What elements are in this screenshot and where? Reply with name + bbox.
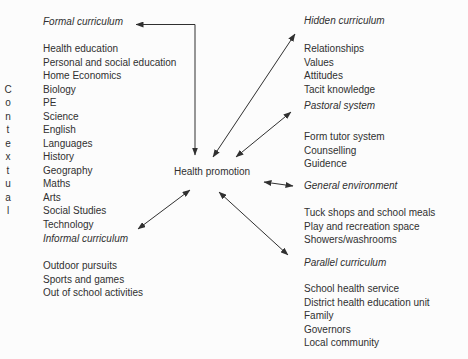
list-item: Social Studies xyxy=(43,204,176,218)
section-title-pastoral-system: Pastoral system xyxy=(304,99,375,113)
section-title-informal-curriculum: Informal curriculum xyxy=(43,232,128,246)
list-item: Biology xyxy=(43,83,176,97)
list-item: Governors xyxy=(304,323,430,337)
list-item: Tacit knowledge xyxy=(304,83,375,97)
list-item: Counselling xyxy=(304,144,385,158)
list-item: Languages xyxy=(43,137,176,151)
informal-curriculum-list: Outdoor pursuits Sports and games Out of… xyxy=(43,259,143,300)
contextual-letter: l xyxy=(2,204,14,218)
list-item: Local community xyxy=(304,336,430,350)
contextual-letter: o xyxy=(2,96,14,110)
section-title-formal-curriculum: Formal curriculum xyxy=(43,15,123,29)
arrow-hidden-curriculum xyxy=(213,34,295,157)
contextual-letter: t xyxy=(2,164,14,178)
list-item: Tuck shops and school meals xyxy=(304,206,435,220)
health-promotion-diagram: C o n t e x t u a l Formal curriculum He… xyxy=(0,0,468,359)
contextual-letter: t xyxy=(2,123,14,137)
section-title-hidden-curriculum: Hidden curriculum xyxy=(304,14,385,28)
list-item: Values xyxy=(304,56,375,70)
list-item: School health service xyxy=(304,282,430,296)
list-item: Geography xyxy=(43,164,176,178)
section-title-general-environment: General environment xyxy=(304,179,397,193)
list-item: Form tutor system xyxy=(304,130,385,144)
list-item: Technology xyxy=(43,218,176,232)
list-item: Outdoor pursuits xyxy=(43,259,143,273)
list-item: Attitudes xyxy=(304,69,375,83)
arrow-pastoral-system xyxy=(236,112,291,157)
contextual-letter: a xyxy=(2,191,14,205)
list-item: Relationships xyxy=(304,42,375,56)
list-item: Health education xyxy=(43,42,176,56)
contextual-letter: x xyxy=(2,150,14,164)
list-item: Arts xyxy=(43,191,176,205)
contextual-letter: C xyxy=(2,83,14,97)
list-item: Play and recreation space xyxy=(304,220,435,234)
list-item: Showers/washrooms xyxy=(304,233,435,247)
pastoral-system-list: Form tutor system Counselling Guidence xyxy=(304,130,385,171)
arrow-general-environment xyxy=(264,182,293,186)
contextual-letter: n xyxy=(2,110,14,124)
list-item: History xyxy=(43,150,176,164)
arrow-parallel-curriculum xyxy=(219,192,288,255)
list-item: Maths xyxy=(43,177,176,191)
list-item: District health education unit xyxy=(304,296,430,310)
list-item: Sports and games xyxy=(43,273,143,287)
parallel-curriculum-list: School health service District health ed… xyxy=(304,282,430,350)
list-item: Home Economics xyxy=(43,69,176,83)
section-title-parallel-curriculum: Parallel curriculum xyxy=(304,256,386,270)
center-node-health-promotion: Health promotion xyxy=(174,165,250,179)
contextual-letter: e xyxy=(2,137,14,151)
list-item: PE xyxy=(43,96,176,110)
list-item: Personal and social education xyxy=(43,56,176,70)
list-item: Guidence xyxy=(304,157,385,171)
list-item: Science xyxy=(43,110,176,124)
contextual-vertical-label: C o n t e x t u a l xyxy=(2,83,14,218)
list-item: English xyxy=(43,123,176,137)
contextual-letter: u xyxy=(2,177,14,191)
formal-curriculum-list: Health education Personal and social edu… xyxy=(43,42,176,231)
list-item: Family xyxy=(304,309,430,323)
hidden-curriculum-list: Relationships Values Attitudes Tacit kno… xyxy=(304,42,375,96)
general-environment-list: Tuck shops and school meals Play and rec… xyxy=(304,206,435,247)
list-item: Out of school activities xyxy=(43,286,143,300)
